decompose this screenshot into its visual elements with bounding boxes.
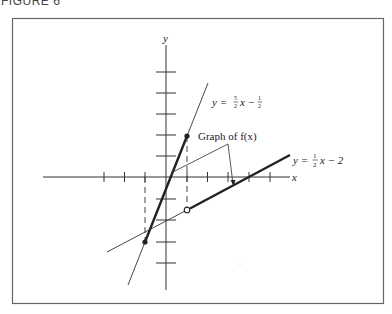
svg-text:x −: x − xyxy=(239,96,255,108)
closed-endpoint-right xyxy=(184,133,189,138)
svg-text:1: 1 xyxy=(313,152,317,160)
x-axis-label: x xyxy=(291,171,297,183)
svg-text:x − 2: x − 2 xyxy=(319,154,344,166)
svg-text:2: 2 xyxy=(313,161,317,169)
speck xyxy=(239,263,240,264)
closed-endpoint-left xyxy=(142,239,147,244)
label-shallow-line: y = 1 2 x − 2 xyxy=(292,152,344,169)
f-piece-2 xyxy=(190,155,290,209)
graph-of-f-label: Graph of f(x) xyxy=(198,130,257,143)
svg-text:y =: y = xyxy=(211,96,227,108)
line-shallow-extension xyxy=(107,210,187,252)
svg-text:y =: y = xyxy=(292,154,308,166)
svg-text:1: 1 xyxy=(258,95,261,101)
svg-text:2: 2 xyxy=(258,103,261,109)
svg-text:5: 5 xyxy=(234,95,237,101)
axes xyxy=(43,45,290,290)
open-endpoint xyxy=(184,207,190,213)
label-steep-line: y = 5 2 x − 1 2 xyxy=(211,95,262,109)
y-axis-label: y xyxy=(162,32,168,44)
svg-text:2: 2 xyxy=(234,103,237,109)
piecewise-function-chart: y x Graph of f(x) y = 5 2 x − 1 2 y = 1 … xyxy=(0,0,392,314)
